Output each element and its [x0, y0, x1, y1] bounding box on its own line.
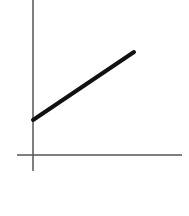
- line-graph: [0, 0, 189, 216]
- data-line: [33, 52, 134, 120]
- plot-area: [0, 0, 189, 216]
